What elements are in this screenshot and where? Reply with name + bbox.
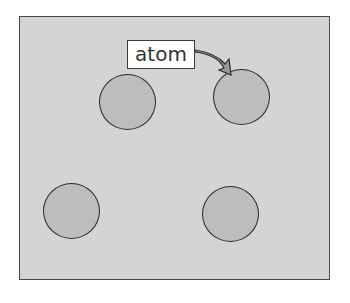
atom-label: atom [127, 40, 195, 69]
